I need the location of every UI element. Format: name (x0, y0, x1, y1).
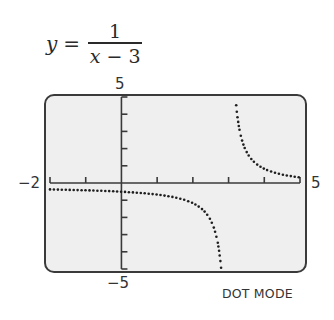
plot-dot (171, 196, 174, 199)
plot-dot (215, 235, 218, 238)
plot-dot (151, 193, 154, 196)
plot-dot (219, 260, 222, 263)
plot-dot (290, 175, 293, 178)
plot-dot (183, 199, 186, 202)
plot-dot (220, 266, 223, 269)
plot-dot (155, 193, 158, 196)
plot-dot (209, 218, 212, 221)
plot-dot (217, 242, 220, 245)
plot-dot (213, 226, 216, 229)
plot-dot (274, 172, 277, 175)
plot-dot (247, 154, 250, 157)
plot-dot (72, 189, 75, 192)
plot-dot (136, 191, 139, 194)
plot-dot (238, 125, 241, 128)
plot-dot (61, 188, 64, 191)
plot-dot (278, 173, 281, 176)
plot-dot (65, 189, 68, 192)
plot-dot (57, 188, 60, 191)
plot-dot (240, 134, 243, 137)
plot-dot (297, 176, 300, 179)
plot-dot (116, 190, 119, 193)
plot-dot (104, 190, 107, 193)
plot-dot (282, 173, 285, 176)
plot-dot (147, 192, 150, 195)
plot-dot (120, 190, 123, 193)
plot-dot (132, 191, 135, 194)
plot-dot (266, 169, 269, 172)
plot-dot (179, 197, 182, 200)
plot-dot (218, 249, 221, 252)
plot-dot (167, 195, 170, 198)
plot-dot (128, 191, 131, 194)
plot-dot (53, 188, 56, 191)
plot-dot (286, 174, 289, 177)
plot-dot (243, 147, 246, 150)
plot-dot (263, 167, 266, 170)
plot-dot (49, 188, 52, 191)
plot-dot (80, 189, 83, 192)
plot-dot (217, 245, 220, 248)
plot-dot (84, 189, 87, 192)
plot-dot (88, 189, 91, 192)
calculator-graph-screen (0, 0, 334, 320)
plot-dot (218, 254, 221, 257)
plot-dot (68, 189, 71, 192)
plot-dot (187, 200, 190, 203)
plot-dot (197, 205, 200, 208)
mode-label: DOT MODE (222, 286, 293, 301)
plot-dot (143, 192, 146, 195)
plot-dot (236, 110, 239, 113)
plot-dot (108, 190, 111, 193)
plot-dot (194, 203, 197, 206)
plot-dot (124, 191, 127, 194)
plot-dot (237, 121, 240, 124)
plot-dot (163, 194, 166, 197)
plot-dot (201, 208, 204, 211)
plot-dot (191, 202, 194, 205)
plot-dot (259, 166, 262, 169)
plot-dot (235, 104, 238, 107)
plot-dot (270, 170, 273, 173)
plot-dot (76, 189, 79, 192)
plot-dot (241, 139, 244, 142)
plot-dot (206, 214, 209, 217)
plot-dot (92, 189, 95, 192)
plot-dot (211, 221, 214, 224)
plot-dot (96, 189, 99, 192)
plot-dot (236, 116, 239, 119)
plot-dot (214, 230, 217, 233)
plot-dot (256, 163, 259, 166)
plot-dot (140, 192, 143, 195)
plot-dot (250, 158, 253, 161)
plot-dot (242, 143, 245, 146)
plot-dot (293, 175, 296, 178)
plot-dot (100, 190, 103, 193)
plot-dot (159, 194, 162, 197)
plot-dot (245, 151, 248, 154)
plot-dot (238, 128, 241, 131)
plot-dot (253, 161, 256, 164)
plot-dot (203, 210, 206, 213)
plot-dot (175, 197, 178, 200)
plot-dot (112, 190, 115, 193)
